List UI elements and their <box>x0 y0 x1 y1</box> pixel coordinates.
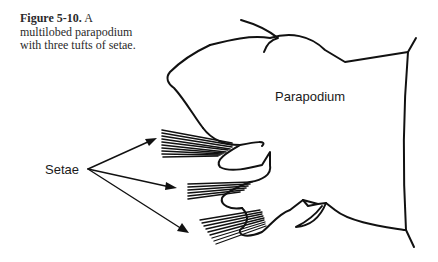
parapodium-label: Parapodium <box>275 89 345 104</box>
parapodium-diagram <box>0 0 438 262</box>
arrow-upper <box>88 141 150 169</box>
dorsal-edge <box>167 45 210 128</box>
arrow-middle <box>88 169 170 187</box>
arrow-lower <box>88 169 182 229</box>
setae-tuft-lower <box>200 210 266 244</box>
dorsal-cirrus <box>241 20 278 52</box>
setae-label: Setae <box>45 162 79 177</box>
arrowhead-lower <box>177 223 189 233</box>
arrowhead-middle <box>165 182 177 190</box>
right-top-spike <box>408 38 416 52</box>
arrowhead-upper <box>145 138 157 146</box>
lower-lobe <box>240 200 303 236</box>
setae-tuft-middle <box>188 182 252 199</box>
right-bottom-spike <box>406 230 414 247</box>
setae-tuft-upper <box>162 130 232 157</box>
